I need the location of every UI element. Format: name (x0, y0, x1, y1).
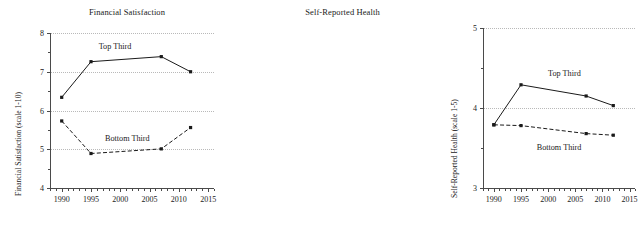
x-axis-tick (91, 189, 92, 192)
x-axis-minor-tick (126, 189, 127, 191)
x-axis-minor-tick (532, 189, 533, 191)
x-axis-minor-tick (68, 189, 69, 191)
data-point-marker (585, 94, 588, 97)
data-point-marker (89, 152, 92, 155)
x-axis-minor-tick (608, 189, 609, 191)
x-axis-minor-tick (191, 189, 192, 191)
x-axis-minor-tick (214, 189, 215, 191)
x-axis-tick-label: 2005 (142, 195, 158, 204)
series-annotation-bottom-third: Bottom Third (537, 143, 582, 152)
x-axis-minor-tick (624, 189, 625, 191)
x-axis-tick-label: 1995 (513, 195, 529, 204)
series-annotation-top-third: Top Third (99, 42, 132, 51)
plot-area: 45678199019952000200520102015Top ThirdBo… (50, 33, 214, 188)
x-axis-tick (208, 189, 209, 192)
y-axis-tick-label: 4 (28, 184, 44, 193)
x-axis-tick (602, 189, 603, 192)
x-axis-minor-tick (196, 189, 197, 191)
x-axis-tick (521, 189, 522, 192)
x-axis-minor-tick (537, 189, 538, 191)
x-axis-minor-tick (488, 189, 489, 191)
y-axis-tick-label: 5 (461, 24, 477, 33)
x-axis-tick (548, 189, 549, 192)
panel-title: Self-Reported Health (218, 7, 451, 17)
x-axis-minor-tick (185, 189, 186, 191)
x-axis-tick-label: 2010 (594, 195, 610, 204)
x-axis-tick (494, 189, 495, 192)
series-annotation-bottom-third: Bottom Third (105, 134, 150, 143)
plot-area: 345199019952000200520102015Top ThirdBott… (483, 28, 635, 188)
y-axis-tick-label: 8 (28, 29, 44, 38)
x-axis-minor-tick (144, 189, 145, 191)
y-axis-tick-label: 6 (28, 106, 44, 115)
x-axis-minor-tick (173, 189, 174, 191)
x-axis-tick-label: 2000 (112, 195, 128, 204)
x-axis-tick (575, 189, 576, 192)
x-axis-minor-tick (635, 189, 636, 191)
panel-title: Financial Satisfaction (0, 7, 236, 17)
x-axis-tick (179, 189, 180, 192)
x-axis-minor-tick (586, 189, 587, 191)
x-axis-minor-tick (155, 189, 156, 191)
y-axis-label: Self-Reported Health (scale 1-5) (450, 99, 459, 198)
x-axis-minor-tick (85, 189, 86, 191)
x-axis-tick (62, 189, 63, 192)
x-axis-tick-label: 2010 (171, 195, 187, 204)
x-axis-tick (120, 189, 121, 192)
x-axis-minor-tick (554, 189, 555, 191)
y-axis-tick-label: 3 (461, 184, 477, 193)
x-axis-tick-label: 1995 (83, 195, 99, 204)
x-axis-minor-tick (56, 189, 57, 191)
x-axis-minor-tick (73, 189, 74, 191)
series-line-top-third (494, 85, 613, 125)
x-axis-minor-tick (109, 189, 110, 191)
data-point-marker (189, 126, 192, 129)
x-axis-tick-label: 1990 (54, 195, 70, 204)
panel-financial-satisfaction: Financial Satisfaction Financial Satisfa… (0, 0, 218, 228)
x-axis-minor-tick (619, 189, 620, 191)
data-point-marker (89, 60, 92, 63)
x-axis-minor-tick (202, 189, 203, 191)
series-annotation-top-third: Top Third (548, 69, 581, 78)
x-axis-minor-tick (581, 189, 582, 191)
data-point-marker (160, 147, 163, 150)
x-axis-tick-label: 1990 (486, 195, 502, 204)
x-axis-minor-tick (592, 189, 593, 191)
data-point-marker (492, 123, 495, 126)
x-axis-minor-tick (114, 189, 115, 191)
x-axis-minor-tick (564, 189, 565, 191)
x-axis-minor-tick (79, 189, 80, 191)
x-axis-tick (630, 189, 631, 192)
x-axis-minor-tick (161, 189, 162, 191)
series-layer (50, 33, 214, 188)
x-axis-minor-tick (570, 189, 571, 191)
x-axis-tick-label: 2000 (540, 195, 556, 204)
data-point-marker (519, 124, 522, 127)
series-layer (483, 28, 635, 188)
data-point-marker (612, 134, 615, 137)
x-axis-minor-tick (516, 189, 517, 191)
x-axis-minor-tick (510, 189, 511, 191)
series-line-top-third (62, 57, 191, 98)
y-axis-tick-label: 7 (28, 67, 44, 76)
series-line-bottom-third (494, 125, 613, 135)
panel-self-reported-health: Self-Reported Health Self-Reported Healt… (218, 0, 435, 228)
data-point-marker (60, 96, 63, 99)
data-point-marker (612, 104, 615, 107)
x-axis-minor-tick (167, 189, 168, 191)
x-axis-minor-tick (103, 189, 104, 191)
data-point-marker (160, 55, 163, 58)
x-axis-tick-label: 2015 (200, 195, 216, 204)
x-axis-minor-tick (613, 189, 614, 191)
x-axis-minor-tick (483, 189, 484, 191)
x-axis-minor-tick (505, 189, 506, 191)
data-point-marker (60, 119, 63, 122)
x-axis-minor-tick (499, 189, 500, 191)
data-point-marker (585, 132, 588, 135)
x-axis-tick-label: 2015 (622, 195, 638, 204)
x-axis-tick-label: 2005 (567, 195, 583, 204)
data-point-marker (189, 70, 192, 73)
x-axis-minor-tick (543, 189, 544, 191)
x-axis-minor-tick (526, 189, 527, 191)
